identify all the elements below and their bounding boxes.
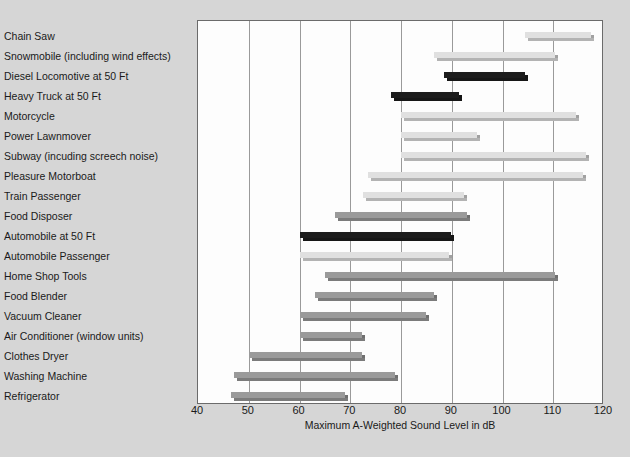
bar (300, 332, 366, 341)
x-tick-label: 80 (394, 404, 406, 416)
category-label: Snowmobile (including wind effects) (4, 50, 185, 62)
bar (434, 52, 558, 61)
category-label: Washing Machine (4, 370, 185, 382)
bar-bottom (303, 318, 429, 321)
bar-bottom (234, 398, 348, 401)
bar (444, 72, 528, 81)
x-tick-label: 40 (191, 404, 203, 416)
bar-bottom (303, 338, 366, 341)
bar-bottom (252, 358, 366, 361)
x-tick-label: 50 (242, 404, 254, 416)
plot-area: MEASUREMENT LOCATION OutdoorsOperator/ P… (197, 20, 603, 404)
bar-bottom (303, 258, 452, 261)
bar (525, 32, 594, 41)
x-tick-label: 90 (445, 404, 457, 416)
category-label: Automobile Passenger (4, 250, 185, 262)
bar (234, 372, 399, 381)
bar-bottom (366, 198, 467, 201)
bar (401, 152, 589, 161)
bar (300, 252, 452, 261)
category-label: Power Lawnmover (4, 130, 185, 142)
bar (401, 112, 579, 121)
bar (300, 312, 429, 321)
x-tick-label: 60 (292, 404, 304, 416)
bar (249, 352, 366, 361)
bar-bottom (338, 218, 469, 221)
category-label: Chain Saw (4, 30, 185, 42)
category-label: Food Disposer (4, 210, 185, 222)
x-tick-label: 120 (594, 404, 612, 416)
bar (325, 272, 558, 281)
category-label: Home Shop Tools (4, 270, 185, 282)
x-axis-title: Maximum A-Weighted Sound Level in dB (197, 419, 603, 431)
x-tick-label: 70 (343, 404, 355, 416)
bar (368, 172, 586, 181)
bar (315, 292, 437, 301)
bar-bottom (404, 138, 480, 141)
bar-bottom (237, 378, 399, 381)
category-label: Air Conditioner (window units) (4, 330, 185, 342)
bar-bottom (437, 58, 558, 61)
bar-bottom (404, 118, 579, 121)
x-tick-label: 110 (543, 404, 561, 416)
bar (231, 392, 348, 401)
category-label: Pleasure Motorboat (4, 170, 185, 182)
bar-bottom (371, 178, 586, 181)
bar (300, 232, 455, 241)
bar-bottom (447, 78, 528, 81)
gridline (553, 21, 554, 403)
x-axis-tick-labels: 405060708090100110120 (197, 404, 603, 420)
bar (401, 132, 480, 141)
gridline (300, 21, 301, 403)
bar-bottom (394, 98, 462, 101)
category-label: Motorcycle (4, 110, 185, 122)
bar-bottom (303, 238, 455, 241)
category-label: Food Blender (4, 290, 185, 302)
category-label: Clothes Dryer (4, 350, 185, 362)
bar (335, 212, 469, 221)
x-tick-label: 100 (492, 404, 510, 416)
category-axis-labels: Chain SawSnowmobile (including wind effe… (0, 0, 193, 420)
bar (391, 92, 462, 101)
category-label: Diesel Locomotive at 50 Ft (4, 70, 185, 82)
bar (363, 192, 467, 201)
bar-bottom (328, 278, 558, 281)
category-label: Train Passenger (4, 190, 185, 202)
category-label: Vacuum Cleaner (4, 310, 185, 322)
gridline (249, 21, 250, 403)
chart-root: Chain SawSnowmobile (including wind effe… (0, 0, 630, 457)
category-label: Refrigerator (4, 390, 185, 402)
category-label: Automobile at 50 Ft (4, 230, 185, 242)
bar-bottom (528, 38, 594, 41)
category-label: Subway (incuding screech noise) (4, 150, 185, 162)
bar-bottom (404, 158, 589, 161)
bar-bottom (318, 298, 437, 301)
category-label: Heavy Truck at 50 Ft (4, 90, 185, 102)
